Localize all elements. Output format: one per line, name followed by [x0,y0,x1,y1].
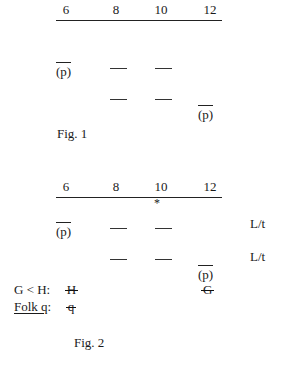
figure-1: 6 8 10 12 (p) (p) Fig. 1 [0,0,287,155]
figure-1-lower-right-p-token: (p) [198,105,213,122]
figure-2-side-label-2: L/t [250,249,265,264]
figure-2-annotation-row-2: Folk q: q [14,299,74,315]
figure-2-lower-right-p-token: (p) [198,265,213,282]
figure-1-upper-dash-2 [155,68,172,69]
figure-2-side-label-1: L/t [250,216,265,231]
figure-2-caption: Fig. 2 [74,335,104,351]
figure-2-annotation-2-struck-value: q [68,299,75,315]
figure-2-tick-8: 8 [106,177,126,196]
figure-2-struck-g-symbol: G [203,282,212,298]
figure-2-scale-row: 6 8 10 12 [56,177,222,199]
figure-1-scale-rule [56,20,222,21]
figure-2-lower-dash-2 [155,259,172,260]
figure-2: 6 8 10 12 * (p) L/t (p) L/t G < H: H G F… [0,160,287,377]
figure-1-tick-8: 8 [106,0,126,19]
figure-2-annotation-2-underlined-label: Folk q [14,299,48,314]
figure-1-tick-10: 10 [151,0,171,19]
figure-2-struck-g-glyph: G [203,282,212,298]
figure-2-lower-dash-1 [110,259,127,260]
figure-2-annotation-1-struck-value: H [67,282,76,298]
figure-1-lower-dash-2 [155,99,172,100]
figure-1-tick-6: 6 [56,0,76,19]
figure-1-lower-dash-1 [110,99,127,100]
figure-2-annotation-1-label: G < H: [14,282,50,297]
figure-1-scale-row: 6 8 10 12 [56,0,222,22]
figure-2-asterisk-marker: * [151,198,163,208]
figure-1-upper-left-p-token: (p) [56,62,71,79]
figure-1-upper-dash-1 [110,68,127,69]
figure-2-annotation-2-label-tail: : [48,299,52,314]
figure-2-annotation-row-1: G < H: H [14,282,76,298]
figure-1-tick-12: 12 [200,0,220,19]
figure-2-tick-10: 10 [151,177,171,196]
figure-2-tick-6: 6 [56,177,76,196]
figure-1-caption: Fig. 1 [57,126,87,142]
figure-2-upper-left-p-token: (p) [56,222,71,239]
figure-2-upper-dash-2 [155,228,172,229]
figure-2-scale-rule [56,197,222,198]
figure-2-upper-dash-1 [110,228,127,229]
figure-2-tick-12: 12 [200,177,220,196]
